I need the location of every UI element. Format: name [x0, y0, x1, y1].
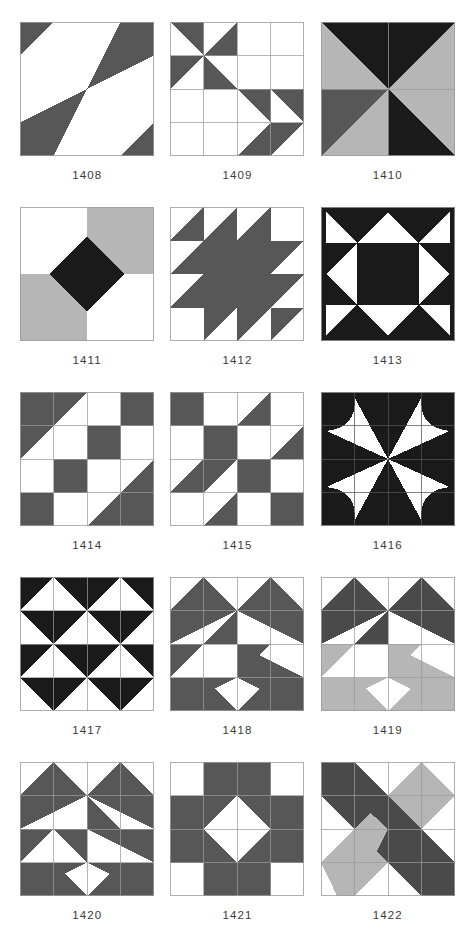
block-cell: 1419: [313, 577, 463, 762]
catalog-sheet: 1408140914101411141214131414141514161417…: [0, 0, 475, 945]
block-caption: 1411: [73, 355, 102, 367]
block-cell: 1418: [162, 577, 312, 762]
block-caption: 1419: [373, 725, 403, 737]
block-caption: 1408: [72, 170, 102, 182]
quilt-block-1421: [170, 762, 304, 896]
block-shape: [54, 459, 88, 493]
block-caption: 1416: [373, 540, 403, 552]
block-shape: [87, 426, 121, 460]
quilt-block-1413: [321, 207, 455, 341]
block-caption: 1413: [373, 355, 403, 367]
block-shape: [20, 493, 54, 527]
block-caption: 1412: [223, 355, 253, 367]
block-caption: 1415: [223, 540, 253, 552]
quilt-block-1410: [321, 22, 455, 156]
block-caption: 1417: [72, 725, 102, 737]
block-shape: [170, 392, 204, 426]
block-shape: [204, 426, 238, 460]
quilt-block-1420: [20, 762, 154, 896]
block-cell: 1412: [162, 207, 312, 392]
block-cell: 1409: [162, 22, 312, 207]
block-caption: 1418: [223, 725, 253, 737]
block-cell: 1413: [313, 207, 463, 392]
quilt-block-1422: [321, 762, 455, 896]
block-cell: 1408: [12, 22, 162, 207]
block-cell: 1422: [313, 762, 463, 945]
quilt-block-1409: [170, 22, 304, 156]
quilt-block-1415: [170, 392, 304, 526]
quilt-block-1414: [20, 392, 154, 526]
quilt-block-1416: [321, 392, 455, 526]
block-shape: [121, 493, 155, 527]
block-grid: 1408140914101411141214131414141514161417…: [0, 0, 475, 945]
quilt-block-1408: [20, 22, 154, 156]
block-cell: 1410: [313, 22, 463, 207]
block-shape: [271, 493, 305, 527]
block-cell: 1416: [313, 392, 463, 577]
block-caption: 1421: [223, 910, 253, 922]
quilt-block-1412: [170, 207, 304, 341]
quilt-block-1417: [20, 577, 154, 711]
block-cell: 1420: [12, 762, 162, 945]
block-shape: [20, 392, 54, 426]
quilt-block-1418: [170, 577, 304, 711]
block-shape: [237, 459, 271, 493]
block-caption: 1414: [72, 540, 102, 552]
quilt-block-1411: [20, 207, 154, 341]
block-cell: 1411: [12, 207, 162, 392]
block-caption: 1410: [373, 170, 403, 182]
block-caption: 1422: [373, 910, 403, 922]
block-shape: [121, 392, 155, 426]
block-caption: 1420: [72, 910, 102, 922]
block-cell: 1421: [162, 762, 312, 945]
block-caption: 1409: [223, 170, 253, 182]
block-cell: 1417: [12, 577, 162, 762]
block-cell: 1415: [162, 392, 312, 577]
block-shape: [204, 241, 238, 308]
block-shape: [237, 274, 271, 308]
quilt-block-1419: [321, 577, 455, 711]
block-cell: 1414: [12, 392, 162, 577]
